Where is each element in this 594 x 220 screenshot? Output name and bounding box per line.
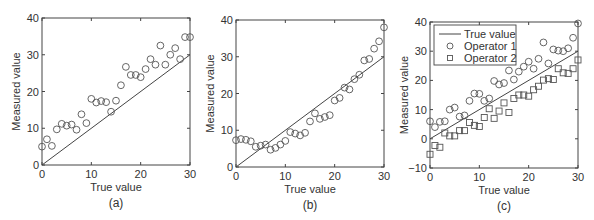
y-tick-label: 0 xyxy=(33,159,39,171)
y-tick-label: 40 xyxy=(415,16,427,28)
circle-marker xyxy=(83,120,90,127)
legend: True valueOperator 1Operator 2 xyxy=(434,25,517,65)
circle-marker xyxy=(540,39,547,46)
circle-marker xyxy=(118,82,125,89)
x-tick-label: 10 xyxy=(85,168,97,180)
y-tick-label: 20 xyxy=(27,86,39,98)
circle-marker xyxy=(361,57,368,64)
circle-marker xyxy=(466,97,473,104)
panel-caption: (a) xyxy=(109,196,124,210)
circle-marker xyxy=(496,81,503,88)
plot-area xyxy=(42,18,190,165)
circle-marker xyxy=(88,95,95,102)
chart-panel-1: 0102030010203040True valueMeasured value… xyxy=(10,12,196,210)
x-tick-label: 10 xyxy=(473,171,485,183)
circle-marker xyxy=(282,138,289,145)
circle-marker xyxy=(366,56,373,63)
circle-marker xyxy=(147,56,154,63)
x-axis-label: True value xyxy=(284,183,336,195)
x-tick-label: 0 xyxy=(39,168,45,180)
figure: 0102030010203040True valueMeasured value… xyxy=(0,0,594,220)
circle-marker xyxy=(162,61,169,68)
panel-caption: (c) xyxy=(497,199,511,213)
true-value-line xyxy=(42,55,190,165)
y-tick-label: 10 xyxy=(415,104,427,116)
circle-marker xyxy=(44,136,51,143)
y-tick-label: 40 xyxy=(221,14,233,26)
legend-entry-label: Operator 1 xyxy=(464,40,517,52)
circle-marker xyxy=(312,110,319,117)
circle-marker xyxy=(98,98,105,105)
x-tick-label: 20 xyxy=(135,168,147,180)
y-tick-label: 0 xyxy=(227,161,233,173)
y-tick-label: 10 xyxy=(221,124,233,136)
x-tick-label: 20 xyxy=(329,170,341,182)
circle-marker xyxy=(307,118,314,125)
x-tick-label: 10 xyxy=(279,170,291,182)
x-axis-label: True value xyxy=(90,181,142,193)
circle-marker xyxy=(287,129,294,136)
circle-marker xyxy=(48,142,55,149)
circle-marker xyxy=(535,55,542,62)
square-marker xyxy=(496,108,502,114)
circle-marker xyxy=(530,65,537,72)
y-tick-label: 40 xyxy=(27,12,39,24)
circle-marker xyxy=(247,138,254,145)
legend-entry-label: Operator 2 xyxy=(464,52,517,64)
y-axis-label: Measured value xyxy=(398,56,410,134)
circle-marker xyxy=(122,63,129,70)
square-marker xyxy=(491,115,497,121)
circle-marker xyxy=(242,136,249,143)
x-tick-label: 30 xyxy=(572,171,584,183)
y-tick-label: 0 xyxy=(421,133,427,145)
square-marker xyxy=(506,110,512,116)
circle-marker xyxy=(510,76,517,83)
circle-marker xyxy=(371,45,378,52)
circle-marker xyxy=(501,80,508,87)
circle-marker xyxy=(53,126,60,133)
y-tick-label: 30 xyxy=(27,49,39,61)
circle-marker xyxy=(277,141,284,148)
y-axis-label: Measured value xyxy=(204,54,216,132)
y-tick-label: 20 xyxy=(221,88,233,100)
circle-marker xyxy=(456,113,463,120)
y-tick-label: 20 xyxy=(415,74,427,86)
circle-marker xyxy=(565,45,572,52)
x-tick-label: 30 xyxy=(378,170,390,182)
circle-marker xyxy=(441,118,448,125)
x-tick-label: 0 xyxy=(427,171,433,183)
circle-marker xyxy=(491,78,498,85)
legend-entry-label: True value xyxy=(464,28,516,40)
x-tick-label: 30 xyxy=(184,168,196,180)
circle-marker xyxy=(103,99,110,106)
circle-marker xyxy=(376,38,383,45)
circle-marker xyxy=(172,45,179,52)
true-value-line xyxy=(236,57,384,167)
circle-marker xyxy=(506,67,513,74)
circle-marker xyxy=(78,111,85,118)
x-tick-label: 0 xyxy=(233,170,239,182)
circle-marker xyxy=(545,60,552,67)
circle-marker xyxy=(476,90,483,97)
circle-marker xyxy=(252,143,259,150)
y-tick-label: −10 xyxy=(408,162,427,174)
y-tick-label: 30 xyxy=(221,51,233,63)
circle-marker xyxy=(525,58,532,65)
x-axis-label: True value xyxy=(478,184,530,196)
circle-marker xyxy=(152,61,159,68)
chart-panel-3: 0102030−10010203040True valueMeasured va… xyxy=(398,16,584,213)
circle-marker xyxy=(73,126,80,133)
circle-marker xyxy=(142,66,149,73)
y-tick-label: 10 xyxy=(27,122,39,134)
square-marker xyxy=(481,114,487,120)
circle-marker xyxy=(93,99,100,106)
circle-marker xyxy=(550,46,557,53)
y-axis-label: Measured value xyxy=(10,52,22,130)
circle-marker xyxy=(570,34,577,41)
circle-marker xyxy=(167,51,174,58)
x-tick-label: 20 xyxy=(523,171,535,183)
circle-marker xyxy=(157,42,164,49)
circle-marker xyxy=(113,97,120,104)
y-tick-label: 30 xyxy=(415,45,427,57)
chart-panel-2: 0102030010203040True valueMeasured value… xyxy=(204,14,390,212)
